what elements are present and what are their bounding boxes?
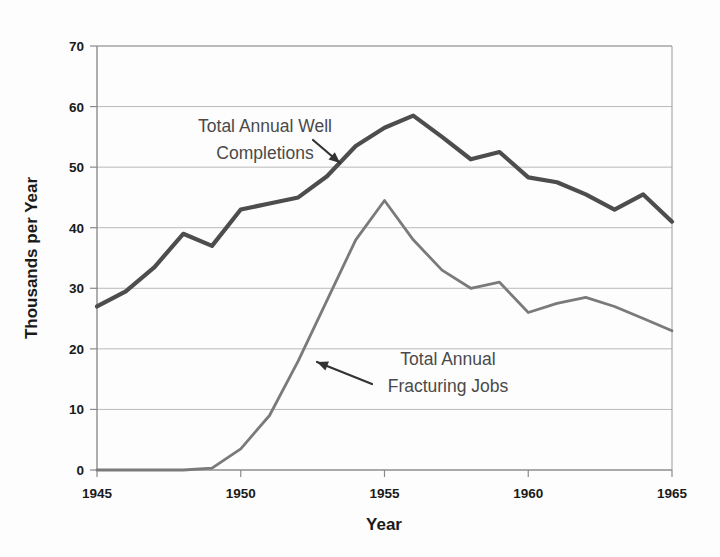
fracturing-jobs-annotation-line2: Fracturing Jobs — [388, 376, 509, 396]
fracturing-jobs-annotation: Total AnnualFracturing Jobs — [317, 349, 509, 396]
y-tick-label-20: 20 — [69, 342, 84, 357]
x-tick-label-1965: 1965 — [657, 486, 688, 501]
fracturing-jobs-annotation-line1: Total Annual — [400, 349, 495, 369]
y-tick-label-10: 10 — [69, 402, 84, 417]
y-tick-label-50: 50 — [69, 160, 84, 175]
x-tick-label-1955: 1955 — [369, 486, 400, 501]
chart-figure: 010203040506070 19451950195519601965 Tot… — [0, 0, 720, 557]
series-annotations: Total Annual WellCompletionsTotal Annual… — [198, 116, 509, 396]
y-tick-label-70: 70 — [69, 39, 84, 54]
data-series — [97, 116, 672, 470]
well-completions-annotation-line1: Total Annual Well — [198, 116, 332, 136]
y-tick-label-40: 40 — [69, 221, 84, 236]
gridlines — [97, 46, 672, 470]
y-axis-title: Thousands per Year — [22, 177, 41, 340]
x-axis-title: Year — [366, 515, 402, 534]
series-line-well-completions — [97, 116, 672, 307]
well-completions-annotation: Total Annual WellCompletions — [198, 116, 340, 163]
series-line-fracturing-jobs — [97, 200, 672, 470]
y-tick-label-0: 0 — [76, 463, 84, 478]
x-axis-tick-labels: 19451950195519601965 — [82, 486, 688, 501]
y-tick-label-60: 60 — [69, 100, 84, 115]
plot-frame — [97, 46, 672, 470]
y-axis-tick-labels: 010203040506070 — [69, 39, 84, 478]
x-tick-label-1950: 1950 — [226, 486, 256, 501]
well-completions-annotation-line2: Completions — [216, 143, 314, 163]
axis-ticks — [90, 46, 672, 477]
x-tick-label-1945: 1945 — [82, 486, 113, 501]
y-tick-label-30: 30 — [69, 281, 84, 296]
chart-canvas: 010203040506070 19451950195519601965 Tot… — [0, 0, 720, 557]
x-tick-label-1960: 1960 — [513, 486, 543, 501]
